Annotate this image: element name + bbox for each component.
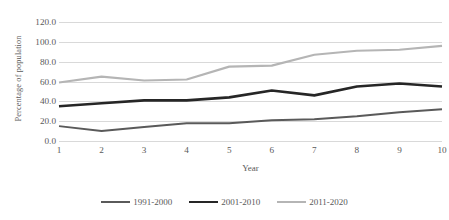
x-axis-tick-label: 2: [99, 145, 104, 155]
legend-line-swatch: [189, 201, 218, 203]
legend-item-2011-2020[interactable]: 2011-2020: [277, 197, 348, 207]
x-axis-tick-label: 8: [355, 145, 360, 155]
series-line-2001-2010: [59, 83, 442, 106]
data-series-group: [59, 22, 442, 141]
y-axis-tick-label: 100.0: [35, 37, 56, 47]
y-axis-tick-labels: 0.020.040.060.080.0100.0120.0: [14, 0, 56, 220]
legend-item-1991-2000[interactable]: 1991-2000: [101, 197, 172, 207]
legend: 1991-20002001-20102011-2020: [0, 197, 449, 207]
x-axis-tick-label: 9: [397, 145, 402, 155]
x-axis-title: Year: [59, 163, 442, 173]
x-axis-tick-label: 3: [142, 145, 147, 155]
x-axis-tick-label: 7: [312, 145, 317, 155]
legend-line-swatch: [101, 201, 130, 203]
y-axis-tick-label: 40.0: [40, 96, 56, 106]
series-line-2011-2020: [59, 46, 442, 83]
y-axis-tick-label: 120.0: [35, 17, 56, 27]
legend-item-2001-2010[interactable]: 2001-2010: [189, 197, 260, 207]
x-axis-tick-label: 4: [184, 145, 189, 155]
x-axis-tick-label: 6: [269, 145, 274, 155]
y-axis-tick-label: 0.0: [45, 136, 56, 146]
y-axis-tick-label: 20.0: [40, 116, 56, 126]
x-axis-tick-labels: 12345678910: [59, 145, 442, 161]
plot-area: [59, 22, 442, 141]
x-axis-tick-label: 5: [227, 145, 232, 155]
legend-label: 1991-2000: [133, 197, 172, 207]
x-axis-tick-label: 1: [57, 145, 62, 155]
legend-line-swatch: [277, 201, 306, 203]
line-chart: Percentage of population 0.020.040.060.0…: [0, 0, 449, 220]
series-line-1991-2000: [59, 109, 442, 131]
legend-label: 2001-2010: [221, 197, 260, 207]
y-axis-tick-label: 60.0: [40, 77, 56, 87]
legend-label: 2011-2020: [309, 197, 348, 207]
gridline: [59, 141, 442, 142]
y-axis-tick-label: 80.0: [40, 57, 56, 67]
x-axis-tick-label: 10: [437, 145, 446, 155]
